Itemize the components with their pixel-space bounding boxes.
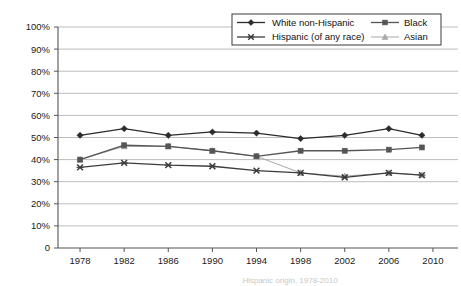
chart-caption: Hispanic origin, 1978-2010 (242, 276, 338, 285)
legend-label: White non-Hispanic (272, 17, 355, 28)
y-axis-tick-label: 30% (31, 176, 51, 187)
y-axis-tick-label: 20% (31, 198, 51, 209)
x-axis-tick-label: 2010 (422, 255, 443, 266)
y-axis-tick-label: 80% (31, 66, 51, 77)
x-axis-tick-label: 2006 (378, 255, 399, 266)
y-axis-tick-label: 40% (31, 154, 51, 165)
x-axis-tick-labels: 197819821986199019941998200220062010 (69, 255, 443, 266)
y-axis-tick-label: 90% (31, 44, 51, 55)
y-axis-tick-label: 70% (31, 88, 51, 99)
data-point-square (298, 148, 303, 153)
data-point-square (342, 148, 347, 153)
data-point-square (254, 154, 259, 159)
legend-label: Asian (404, 31, 428, 42)
x-axis-tick-label: 2002 (334, 255, 355, 266)
legend-label: Hispanic (of any race) (272, 31, 364, 42)
y-axis-tick-label: 0 (45, 242, 50, 253)
y-axis-tick-label: 100% (26, 21, 51, 32)
y-axis-tick-label: 10% (31, 220, 51, 231)
data-point-square (210, 148, 215, 153)
data-point-square (386, 147, 391, 152)
data-point-square (166, 144, 171, 149)
x-axis-tick-label: 1986 (158, 255, 179, 266)
legend-label: Black (404, 17, 427, 28)
x-axis-tick-label: 1982 (114, 255, 135, 266)
data-point-square (78, 157, 83, 162)
x-axis-tick-label: 1990 (202, 255, 223, 266)
y-axis-tick-label: 50% (31, 132, 51, 143)
x-axis-tick-label: 1998 (290, 255, 311, 266)
line-chart: 010%20%30%40%50%60%70%80%90%100% 1978198… (0, 0, 461, 286)
data-point-square (122, 143, 127, 148)
chart-legend: White non-HispanicBlackHispanic (of any … (232, 14, 441, 45)
data-point-square (419, 145, 424, 150)
chart-container: 010%20%30%40%50%60%70%80%90%100% 1978198… (0, 0, 461, 286)
data-point-square (383, 20, 388, 25)
y-axis-tick-label: 60% (31, 110, 51, 121)
x-axis-tick-label: 1978 (69, 255, 90, 266)
x-axis-tick-label: 1994 (246, 255, 267, 266)
